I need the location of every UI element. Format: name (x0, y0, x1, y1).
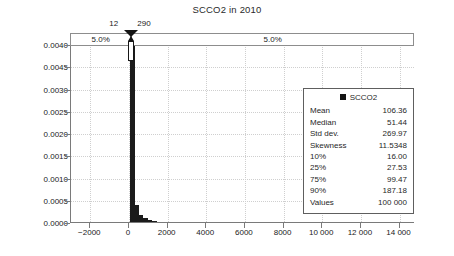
x-tick-mark (167, 223, 168, 228)
x-tick-label: 14 000 (386, 228, 410, 237)
chart-title: SCCO2 in 2010 (0, 4, 454, 15)
legend-series-name: SCCO2 (350, 93, 378, 102)
y-tick-mark (65, 67, 70, 68)
legend-row: Mean106.36 (310, 105, 407, 116)
legend-row: Std dev.269.97 (310, 128, 407, 139)
x-tick-label: 8000 (274, 228, 292, 237)
y-tick-label: 0.0015 (8, 152, 68, 161)
legend-stat-value: 99.47 (387, 174, 407, 185)
legend-stat-key: 10% (310, 151, 326, 162)
y-tick-label: 0.0025 (8, 107, 68, 116)
legend-stat-value: 11.5348 (379, 140, 407, 151)
x-tick-mark (244, 223, 245, 228)
x-tick-label: 4000 (196, 228, 214, 237)
legend-row: 75%99.47 (310, 174, 407, 185)
legend-stat-value: 187.18 (383, 185, 407, 196)
x-tick-mark (360, 223, 361, 228)
marker-label-high: 290 (137, 19, 150, 28)
y-tick-label: 0.0045 (8, 63, 68, 72)
x-tick-label: 0 (126, 228, 130, 237)
legend-row: 10%16.00 (310, 151, 407, 162)
legend-stat-key: Median (310, 117, 336, 128)
legend-stat-key: 75% (310, 174, 326, 185)
x-tick-label: 6000 (235, 228, 253, 237)
legend-row: 90%187.18 (310, 185, 407, 196)
legend-header: SCCO2 (310, 93, 407, 102)
x-tick-label: 2000 (158, 228, 176, 237)
y-tick-mark (65, 134, 70, 135)
legend-stat-value: 100 000 (378, 197, 407, 208)
y-tick-label: 0.0030 (8, 85, 68, 94)
y-tick-mark (65, 201, 70, 202)
x-tick-mark (89, 223, 90, 228)
y-tick-label: 0.0000 (8, 219, 68, 228)
y-tick-label: 0.0020 (8, 130, 68, 139)
legend-stat-key: 90% (310, 185, 326, 196)
y-tick-mark (65, 90, 70, 91)
legend-stat-value: 16.00 (387, 151, 407, 162)
x-tick-label: 12 000 (348, 228, 372, 237)
histogram-chart: SCCO2 in 2010 0.00400.00450.00300.00250.… (0, 0, 454, 256)
legend-stat-key: Std dev. (310, 128, 339, 139)
legend-stat-value: 269.97 (383, 128, 407, 139)
legend-stat-key: Values (310, 197, 334, 208)
histogram-bar (130, 44, 134, 222)
y-tick-label: 0.0040 (8, 41, 68, 50)
y-tick-label: 0.0005 (8, 196, 68, 205)
y-tick-label: 0.0010 (8, 174, 68, 183)
statistics-legend: SCCO2 Mean106.36Median51.44Std dev.269.9… (303, 88, 414, 214)
histogram-bar (152, 221, 156, 222)
x-tick-label: 10 000 (309, 228, 333, 237)
legend-rows: Mean106.36Median51.44Std dev.269.97Skewn… (310, 105, 407, 208)
y-tick-mark (65, 223, 70, 224)
x-tick-mark (283, 223, 284, 228)
y-tick-mark (65, 179, 70, 180)
series-swatch-icon (340, 94, 346, 100)
band-baseline (70, 45, 414, 46)
x-tick-mark (321, 223, 322, 228)
marker-box (128, 41, 134, 61)
legend-row: Values100 000 (310, 197, 407, 208)
legend-stat-value: 27.53 (387, 162, 407, 173)
legend-row: 25%27.53 (310, 162, 407, 173)
bowtie-icon (124, 30, 138, 41)
y-tick-mark (65, 156, 70, 157)
legend-row: Median51.44 (310, 117, 407, 128)
legend-stat-value: 106.36 (383, 105, 407, 116)
legend-stat-value: 51.44 (387, 117, 407, 128)
x-tick-mark (399, 223, 400, 228)
y-tick-mark (65, 112, 70, 113)
median-marker (124, 30, 138, 41)
x-tick-mark (205, 223, 206, 228)
legend-stat-key: Mean (310, 105, 330, 116)
x-tick-mark (128, 223, 129, 228)
legend-row: Skewness11.5348 (310, 140, 407, 151)
x-tick-label: −2000 (78, 228, 100, 237)
legend-stat-key: Skewness (310, 140, 346, 151)
legend-stat-key: 25% (310, 162, 326, 173)
marker-label-low: 12 (109, 19, 118, 28)
